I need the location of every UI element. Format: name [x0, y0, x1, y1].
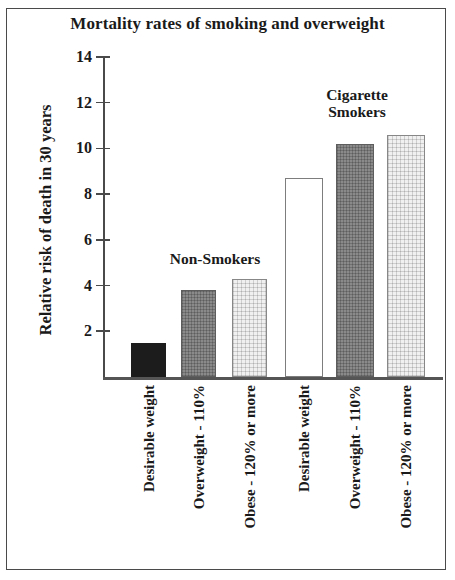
x-axis-category-label: Obese - 120% or more [240, 385, 260, 560]
x-axis-category-label: Desirable weight [294, 385, 314, 560]
x-axis-category-label: Obese - 120% or more [396, 385, 416, 560]
x-axis-category-label: Overweight - 110% [345, 385, 365, 560]
x-axis-category-label: Desirable weight [139, 385, 159, 560]
chart-figure: Mortality rates of smoking and overweigh… [0, 0, 455, 580]
x-axis-category-labels: Desirable weightOverweight - 110%Obese -… [0, 0, 455, 580]
x-axis-category-label: Overweight - 110% [189, 385, 209, 560]
